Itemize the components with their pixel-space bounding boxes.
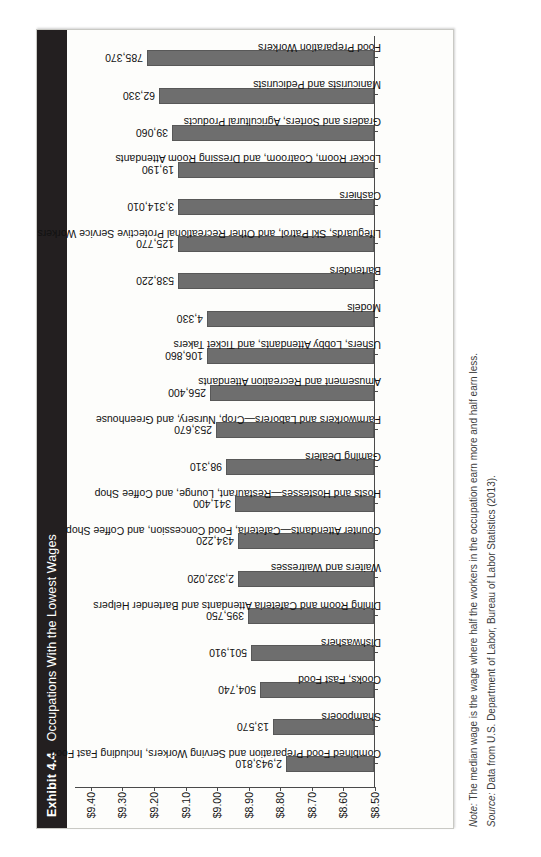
category-label: Counter Attendants—Cafeteria, Food Conce… bbox=[65, 525, 380, 537]
bar-column: 3,314,010 bbox=[75, 188, 374, 225]
y-axis-tickmark bbox=[343, 787, 344, 791]
x-axis-tickmark bbox=[374, 540, 378, 541]
bar-value-label: 538,220 bbox=[136, 275, 174, 287]
category-label: Farmworkers and Laborers—Crop, Nursery, … bbox=[95, 413, 380, 425]
category-label: Combined Food Preparation and Serving Wo… bbox=[50, 748, 381, 760]
category-label: Amusement and Recreation Attendants bbox=[198, 376, 381, 388]
source-line: Source: Data from U.S. Department of Lab… bbox=[484, 29, 499, 827]
category-label: Waiters and Waitresses bbox=[270, 562, 380, 574]
category-label-column: Dining Room and Cafeteria Attendants and… bbox=[379, 597, 455, 634]
y-axis-tick: $8.50 bbox=[369, 792, 381, 818]
x-axis-tickmark bbox=[374, 168, 378, 169]
category-label: Models bbox=[347, 301, 381, 313]
y-axis-tick: $8.80 bbox=[274, 792, 286, 818]
bar-value-label: 106,860 bbox=[164, 349, 202, 361]
category-label: Hosts and Hostesses—Restaurant, Lounge, … bbox=[94, 487, 380, 499]
bar-chart: $8.50$8.60$8.70$8.80$8.90$9.00$9.10$9.20… bbox=[67, 28, 455, 828]
y-axis-tickmark bbox=[248, 787, 249, 791]
category-label: Food Preparation Workers bbox=[258, 41, 381, 53]
category-label-column: Cooks, Fast Food bbox=[379, 672, 455, 709]
x-axis-tickmark bbox=[374, 391, 378, 392]
plot-area: $8.50$8.60$8.70$8.80$8.90$9.00$9.10$9.20… bbox=[67, 30, 453, 828]
bar-value-label: 19,190 bbox=[142, 163, 174, 175]
source-text: Data from U.S. Department of Labor, Bure… bbox=[485, 475, 496, 792]
category-label-column: Waiters and Waitresses bbox=[379, 560, 455, 597]
exhibit-footnotes: Note: The median wage is the wage where … bbox=[467, 29, 502, 827]
y-axis-tickmark bbox=[185, 787, 186, 791]
y-axis-tick: $9.00 bbox=[211, 792, 223, 818]
y-axis-tickmark bbox=[375, 787, 376, 791]
x-axis-tickmark bbox=[374, 689, 378, 690]
category-label: Bartenders bbox=[329, 264, 380, 276]
bar-value-label: 504,740 bbox=[218, 684, 256, 696]
y-axis-tick: $8.90 bbox=[242, 792, 254, 818]
category-label-column: Hosts and Hostesses—Restaurant, Lounge, … bbox=[379, 486, 455, 523]
scanned-page: Exhibit 4.4 Occupations With the Lowest … bbox=[0, 0, 541, 857]
x-axis-tickmark bbox=[374, 651, 378, 652]
x-axis-tickmark bbox=[374, 503, 378, 504]
y-axis-tick: $8.60 bbox=[337, 792, 349, 818]
y-axis-tickmark bbox=[153, 787, 154, 791]
y-axis-tickmark bbox=[90, 787, 91, 791]
category-label-column: Dishwashers bbox=[379, 635, 455, 672]
x-axis-tickmark bbox=[374, 465, 378, 466]
bar-value-label: 98,310 bbox=[189, 461, 221, 473]
bar-value-label: 2,332,020 bbox=[187, 572, 234, 584]
bar-value-label: 3,314,010 bbox=[127, 201, 174, 213]
category-label-column: Food Preparation Workers bbox=[379, 39, 455, 76]
x-axis-tickmark bbox=[374, 317, 378, 318]
bar-value-label: 62,330 bbox=[123, 89, 155, 101]
note-lead: Note: bbox=[468, 803, 479, 827]
category-label: Lifeguards, Ski Patrol, and Other Recrea… bbox=[37, 227, 381, 239]
category-label-column: Graders and Sorters, Agricultural Produc… bbox=[379, 114, 455, 151]
category-label-column: Amusement and Recreation Attendants bbox=[379, 374, 455, 411]
category-label: Cashiers bbox=[339, 190, 380, 202]
x-axis-tickmark bbox=[374, 242, 378, 243]
x-axis-tickmark bbox=[374, 726, 378, 727]
source-lead: Source: bbox=[485, 792, 496, 826]
note-line: Note: The median wage is the wage where … bbox=[467, 29, 482, 827]
bar-value-label: 13,570 bbox=[236, 721, 268, 733]
y-axis-tickmark bbox=[122, 787, 123, 791]
category-label-column: Bartenders bbox=[379, 263, 455, 300]
category-label-column: Gaming Dealers bbox=[379, 449, 455, 486]
y-axis-tickmark bbox=[217, 787, 218, 791]
y-axis-tickmark bbox=[280, 787, 281, 791]
category-label-column: Counter Attendants—Cafeteria, Food Conce… bbox=[379, 523, 455, 560]
y-axis-tick: $9.40 bbox=[84, 792, 96, 818]
bar-value-label: 39,060 bbox=[135, 126, 167, 138]
rotated-exhibit-wrapper: Exhibit 4.4 Occupations With the Lowest … bbox=[36, 29, 506, 829]
exhibit-title: Occupations With the Lowest Wages bbox=[45, 534, 59, 741]
category-label-column: Farmworkers and Laborers—Crop, Nursery, … bbox=[379, 411, 455, 448]
category-label: Ushers, Lobby Attendants, and Ticket Tak… bbox=[173, 339, 381, 351]
bar-value-label: 256,400 bbox=[167, 386, 205, 398]
x-axis-tickmark bbox=[374, 279, 378, 280]
exhibit-card: Exhibit 4.4 Occupations With the Lowest … bbox=[36, 29, 454, 829]
y-axis-tick: $9.30 bbox=[116, 792, 128, 818]
x-axis-tickmark bbox=[374, 131, 378, 132]
category-label-column: Combined Food Preparation and Serving Wo… bbox=[379, 746, 455, 783]
bar-column: 4,330 bbox=[75, 299, 374, 336]
category-label: Cooks, Fast Food bbox=[298, 674, 381, 686]
y-axis-tick-labels: $8.50$8.60$8.70$8.80$8.90$9.00$9.10$9.20… bbox=[67, 788, 455, 828]
bar-value-label: 501,910 bbox=[208, 646, 246, 658]
y-axis-tick: $9.20 bbox=[147, 792, 159, 818]
y-axis-tick: $9.10 bbox=[179, 792, 191, 818]
x-axis-tickmark bbox=[374, 354, 378, 355]
y-axis-tickmark bbox=[311, 787, 312, 791]
category-label: Graders and Sorters, Agricultural Produc… bbox=[183, 115, 380, 127]
x-axis-tickmark bbox=[374, 763, 378, 764]
category-label-column: Manicurists and Pedicurists bbox=[379, 77, 455, 114]
category-axis-labels: Combined Food Preparation and Serving Wo… bbox=[379, 36, 455, 788]
exhibit-header: Exhibit 4.4 Occupations With the Lowest … bbox=[37, 30, 67, 828]
category-label-column: Shampooers bbox=[379, 709, 455, 746]
x-axis-tickmark bbox=[374, 577, 378, 578]
x-axis-tickmark bbox=[374, 56, 378, 57]
x-axis-tickmark bbox=[374, 205, 378, 206]
x-axis-tickmark bbox=[374, 614, 378, 615]
category-label-column: Cashiers bbox=[379, 188, 455, 225]
bar-value-label: 4,330 bbox=[176, 312, 202, 324]
category-label: Dishwashers bbox=[320, 636, 380, 648]
category-label-column: Ushers, Lobby Attendants, and Ticket Tak… bbox=[379, 337, 455, 374]
category-label: Locker Room, Coatroom, and Dressing Room… bbox=[115, 153, 381, 165]
